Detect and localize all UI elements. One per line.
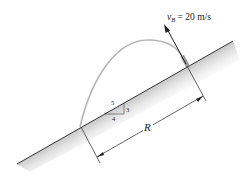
velocity-arrow [166,27,186,64]
projectile-diagram: vB = 20 m/s R 5 3 4 [0,0,251,179]
arrowhead-icon [164,24,170,33]
slope-rise-label: 3 [126,106,129,113]
slope-line [17,41,233,164]
dim-arrow-right-icon [196,96,203,102]
range-label: R [143,121,151,133]
dim-arrow-left-icon [97,152,104,157]
slope-hypotenuse-label: 5 [111,99,114,106]
velocity-label: vB = 20 m/s [167,12,211,23]
